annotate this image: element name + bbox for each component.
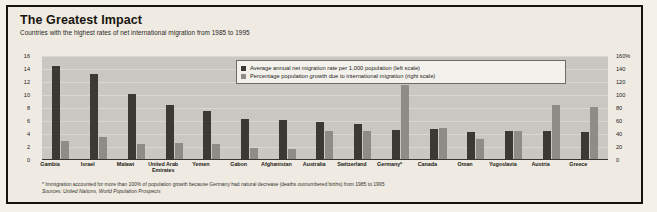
bar-group [42,66,80,160]
bar-population-growth [137,144,145,160]
bar-migration-rate [241,119,249,160]
footnote-sources: Sources: United Nations, World Populatio… [42,188,622,195]
y-axis-right-tick: 20 [616,144,638,150]
bar-population-growth [590,107,598,160]
y-axis-left-tick: 14 [14,66,30,72]
bar-migration-rate [90,74,98,160]
bar-group [419,128,457,161]
legend-label-population-growth: Percentage population growth due to inte… [250,73,435,80]
y-axis-left-tick: 6 [14,118,30,124]
y-axis-right-tick: 100 [616,92,638,98]
y-axis-left-tick: 4 [14,131,30,137]
bar-migration-rate [354,124,362,160]
bar-group [533,105,571,160]
bar-population-growth [61,141,69,161]
bar-population-growth [363,131,371,160]
x-axis-label: Greece [554,161,603,167]
bar-population-growth [439,128,447,161]
legend-item-migration-rate: Average annual net migration rate per 1,… [241,64,560,72]
bar-migration-rate [430,129,438,160]
legend-item-population-growth: Percentage population growth due to inte… [241,72,560,80]
chart-figure-frame: The Greatest Impact Countries with the h… [6,5,643,204]
bar-population-growth [212,144,220,160]
bar-group [80,74,118,160]
bar-population-growth [476,139,484,160]
bar-group [495,131,533,160]
bar-population-growth [552,105,560,160]
bar-population-growth [99,137,107,160]
y-axis-left-tick: 10 [14,92,30,98]
y-axis-left-tick: 12 [14,79,30,85]
y-axis-right-tick: 120 [616,79,638,85]
bar-migration-rate [52,66,60,160]
bar-migration-rate [128,94,136,160]
page-title: The Greatest Impact [20,14,631,27]
bar-migration-rate [467,132,475,160]
bar-migration-rate [166,105,174,160]
bar-population-growth [514,131,522,160]
legend-swatch-dark [241,66,246,71]
bar-group [457,132,495,160]
bar-group [268,120,306,160]
y-axis-right-tick: 80 [616,105,638,111]
bar-population-growth [401,85,409,160]
legend-label-migration-rate: Average annual net migration rate per 1,… [250,65,420,72]
bar-migration-rate [203,111,211,160]
y-axis-left-tick: 2 [14,144,30,150]
x-axis-labels: GambiaIsraelMalawiUnited Arab EmiratesYe… [42,161,620,179]
y-axis-right-tick: 40 [616,131,638,137]
bar-migration-rate [543,131,551,160]
bar-group [231,119,269,160]
gridline [42,56,608,57]
bar-migration-rate [581,132,589,160]
bar-group [306,122,344,160]
page-subtitle: Countries with the highest rates of net … [20,29,631,37]
bar-migration-rate [316,122,324,160]
bar-group [382,85,420,160]
y-axis-left-tick: 8 [14,105,30,111]
y-axis-right-tick: 60 [616,118,638,124]
y-axis-right-tick: 140 [616,66,638,72]
chart-legend: Average annual net migration rate per 1,… [236,60,566,84]
footnotes: * Immigration accounted for more than 10… [42,181,622,195]
bar-group [344,124,382,160]
bar-migration-rate [392,130,400,160]
bar-group [155,105,193,160]
bar-migration-rate [279,120,287,160]
scanned-page: The Greatest Impact Countries with the h… [0,0,657,212]
bar-population-growth [175,143,183,160]
bar-migration-rate [505,131,513,160]
figure-inner: The Greatest Impact Countries with the h… [8,7,641,202]
legend-swatch-light [241,74,246,79]
bar-population-growth [325,131,333,160]
y-axis-left-tick: 16 [14,53,30,59]
bar-group [117,94,155,160]
bar-group [570,107,608,160]
bar-group [193,111,231,160]
x-axis-line [42,159,608,160]
y-axis-right-tick: 160% [616,53,638,59]
footnote-germany: * Immigration accounted for more than 10… [42,181,622,188]
